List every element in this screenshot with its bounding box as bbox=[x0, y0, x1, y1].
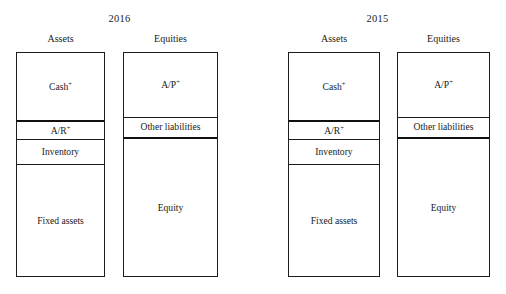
segment-label-fixed-assets-2015: Fixed assets bbox=[311, 216, 358, 226]
segment-label-other-liabilities-2016: Other liabilities bbox=[141, 122, 201, 132]
segment-label-inventory-2015: Inventory bbox=[315, 147, 352, 157]
year-title-2015: 2015 bbox=[251, 13, 504, 24]
segment-label-equity-2015: Equity bbox=[431, 203, 457, 213]
panel-2015: 2015 Assets Equities Cash+ A/R+ Inventor… bbox=[253, 0, 506, 294]
segment-accounts-receivable-2016: A/R+ bbox=[17, 122, 104, 140]
segment-fixed-assets-2016: Fixed assets bbox=[17, 165, 104, 276]
superscript-accounts-payable-2015: + bbox=[449, 78, 453, 85]
year-title-2016: 2016 bbox=[0, 13, 246, 24]
superscript-cash-2016: + bbox=[68, 80, 72, 87]
segment-label-accounts-receivable-2016: A/R bbox=[51, 125, 67, 136]
segment-label-other-liabilities-2015: Other liabilities bbox=[414, 122, 474, 132]
column-heading-assets-2016: Assets bbox=[16, 33, 105, 44]
segment-accounts-receivable-2015: A/R+ bbox=[289, 122, 379, 140]
equities-stack-2015: A/P+ Other liabilities Equity bbox=[397, 52, 490, 277]
segment-inventory-2015: Inventory bbox=[289, 140, 379, 165]
column-heading-equities-2016: Equities bbox=[123, 33, 218, 44]
column-heading-equities-2015: Equities bbox=[397, 33, 490, 44]
superscript-accounts-receivable-2016: + bbox=[67, 124, 71, 131]
segment-accounts-payable-2015: A/P+ bbox=[398, 53, 489, 118]
segment-label-cash-2015: Cash bbox=[323, 81, 342, 92]
segment-cash-2016: Cash+ bbox=[17, 53, 104, 122]
segment-accounts-payable-2016: A/P+ bbox=[124, 53, 217, 118]
segment-label-accounts-payable-2015: A/P bbox=[434, 79, 449, 90]
segment-cash-2015: Cash+ bbox=[289, 53, 379, 122]
assets-stack-2015: Cash+ A/R+ Inventory Fixed assets bbox=[288, 52, 380, 277]
segment-other-liabilities-2015: Other liabilities bbox=[398, 118, 489, 139]
segment-inventory-2016: Inventory bbox=[17, 140, 104, 165]
segment-label-fixed-assets-2016: Fixed assets bbox=[37, 216, 84, 226]
segment-fixed-assets-2015: Fixed assets bbox=[289, 165, 379, 276]
segment-equity-2015: Equity bbox=[398, 139, 489, 276]
column-heading-assets-2015: Assets bbox=[288, 33, 380, 44]
segment-label-equity-2016: Equity bbox=[158, 203, 184, 213]
assets-stack-2016: Cash+ A/R+ Inventory Fixed assets bbox=[16, 52, 105, 277]
superscript-cash-2015: + bbox=[342, 80, 346, 87]
superscript-accounts-payable-2016: + bbox=[176, 78, 180, 85]
panel-2016: 2016 Assets Equities Cash+ A/R+ Inventor… bbox=[0, 0, 253, 294]
equities-stack-2016: A/P+ Other liabilities Equity bbox=[123, 52, 218, 277]
segment-equity-2016: Equity bbox=[124, 139, 217, 276]
superscript-accounts-receivable-2015: + bbox=[340, 124, 344, 131]
segment-label-cash-2016: Cash bbox=[49, 81, 68, 92]
segment-label-accounts-receivable-2015: A/R bbox=[324, 125, 340, 136]
segment-label-inventory-2016: Inventory bbox=[42, 147, 79, 157]
segment-label-accounts-payable-2016: A/P bbox=[161, 79, 176, 90]
segment-other-liabilities-2016: Other liabilities bbox=[124, 118, 217, 139]
